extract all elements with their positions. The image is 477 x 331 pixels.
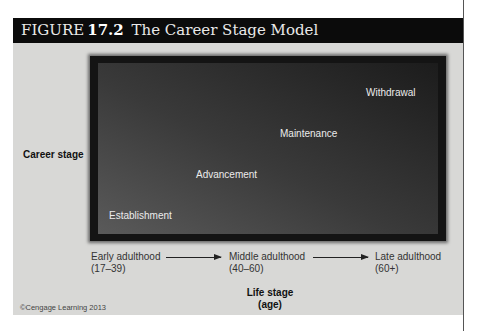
- y-axis-label: Career stage: [23, 149, 84, 160]
- life-stage-late: Late adulthood (60+): [375, 251, 441, 275]
- stage-maintenance: Maintenance: [280, 128, 337, 139]
- stage-establishment: Establishment: [109, 210, 172, 221]
- stage-withdrawal: Withdrawal: [366, 87, 415, 98]
- figure-number: 17.2: [87, 21, 124, 39]
- x-axis-label-line2: (age): [240, 299, 300, 311]
- life-stage-middle-name: Middle adulthood: [229, 251, 305, 263]
- arrow-right-icon: [166, 257, 221, 258]
- stage-advancement: Advancement: [196, 169, 257, 180]
- arrow-right-icon: [313, 257, 368, 258]
- figure-title-bar: FIGURE17.2 The Career Stage Model: [13, 18, 463, 43]
- figure-label: FIGURE: [21, 21, 84, 39]
- life-stage-late-name: Late adulthood: [375, 251, 441, 263]
- life-stage-middle-range: (40–60): [229, 263, 305, 275]
- life-stage-late-range: (60+): [375, 263, 441, 275]
- figure-title: The Career Stage Model: [132, 21, 319, 39]
- life-stage-early: Early adulthood (17–39): [91, 251, 161, 275]
- page-edge-line: [463, 0, 464, 331]
- life-stage-early-range: (17–39): [91, 263, 161, 275]
- life-stage-middle: Middle adulthood (40–60): [229, 251, 305, 275]
- x-axis-label-line1: Life stage: [240, 287, 300, 299]
- x-axis-label: Life stage (age): [240, 287, 300, 311]
- career-stage-box: Establishment Advancement Maintenance Wi…: [90, 56, 446, 241]
- life-stage-early-name: Early adulthood: [91, 251, 161, 263]
- copyright: ©Cengage Learning 2013: [20, 303, 106, 312]
